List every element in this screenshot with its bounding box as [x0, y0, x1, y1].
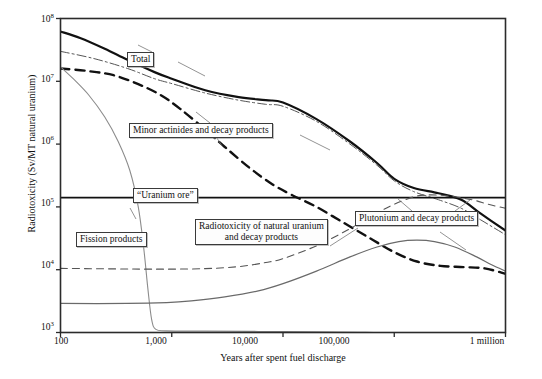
chart-canvas — [0, 0, 542, 379]
x-axis-title: Years after spent fuel discharge — [60, 352, 506, 363]
annotation-total: Total — [127, 52, 154, 67]
annotation-natural-uranium: Radiotoxicity of natural uranium and dec… — [195, 219, 328, 245]
annotation-natural-uranium-line2: and decay products — [225, 232, 298, 242]
x-tick-10000: 10,000 — [217, 336, 273, 346]
x-tick-1million: 1 million — [452, 336, 522, 346]
curve-group — [61, 32, 506, 342]
x-tick-100: 100 — [40, 336, 82, 346]
annotation-fission-products: Fission products — [76, 232, 147, 247]
radiotoxicity-chart-figure: 108 107 106 105 104 103 100 1,000 10,000… — [0, 0, 542, 379]
annotation-plutonium: Plutonium and decay products — [355, 211, 478, 226]
y-axis-title-wrap: Radiotoxicity (Sv/MT natural uranium) — [0, 0, 30, 340]
leader-line — [398, 199, 412, 211]
y-axis-title: Radiotoxicity (Sv/MT natural uranium) — [26, 39, 37, 269]
leader-line — [130, 208, 136, 219]
leader-line — [178, 62, 205, 76]
annotation-natural-uranium-line1: Radiotoxicity of natural uranium — [199, 221, 324, 231]
axis-ticks — [56, 19, 506, 338]
leader-line — [138, 45, 152, 52]
annotation-minor-actinides: Minor actinides and decay products — [129, 123, 273, 138]
leader-line — [440, 232, 466, 250]
curve-fission-products — [61, 67, 506, 342]
leader-line — [196, 112, 210, 123]
annotation-uranium-ore: “Uranium ore” — [133, 188, 198, 203]
curve-lower-solid-curve-uranium-residual-actinides — [61, 240, 506, 303]
x-tick-100000: 100,000 — [306, 336, 362, 346]
x-tick-1000: 1,000 — [128, 336, 184, 346]
leader-line — [300, 135, 330, 150]
